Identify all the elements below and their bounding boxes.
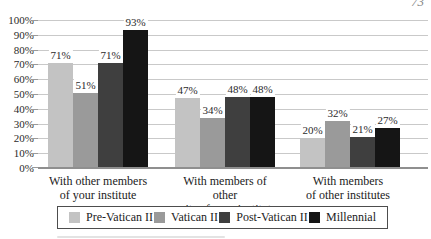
bar-pre-vatican-ii-cat2 — [175, 98, 200, 168]
bar-value-label: 21% — [350, 123, 374, 135]
legend-label: Post-Vatican II — [236, 210, 308, 225]
bar-post-vatican-ii-cat3 — [350, 137, 375, 168]
category-label: With members of other institutes — [293, 174, 403, 202]
bar-value-label: 93% — [123, 16, 147, 28]
bar-millennial-cat2 — [250, 97, 275, 168]
category-label-line: of your institute — [43, 188, 153, 202]
y-axis-tick — [32, 109, 38, 110]
bar-millennial-cat1 — [123, 30, 148, 168]
cut-off-text-remnant — [57, 236, 225, 238]
legend-swatch-pre-vatican-ii — [69, 212, 80, 223]
category-label-line: of other institutes — [293, 188, 403, 202]
y-axis-tick — [32, 35, 38, 36]
y-axis-tick-label: 40% — [0, 103, 34, 115]
bar-value-label: 47% — [175, 84, 199, 96]
y-axis-tick — [32, 20, 38, 21]
bar-value-label: 48% — [225, 83, 249, 95]
x-axis-baseline — [38, 167, 428, 169]
legend-swatch-millennial — [309, 212, 320, 223]
gridline — [38, 35, 428, 36]
y-axis-tick — [32, 94, 38, 95]
y-axis-tick-label: 30% — [0, 118, 34, 130]
gridline — [38, 20, 428, 21]
bar-value-label: 32% — [325, 107, 349, 119]
bar-vatican-ii-cat3 — [325, 121, 350, 168]
category-label-line: With members — [293, 174, 403, 188]
y-axis-tick-label: 10% — [0, 147, 34, 159]
category-label-line: With members of other — [170, 174, 280, 202]
y-axis-tick-label: 0% — [0, 162, 34, 174]
legend-item-millennial: Millennial — [309, 210, 376, 225]
category-label-line: With other members — [43, 174, 153, 188]
bar-value-label: 48% — [250, 83, 274, 95]
legend-item-pre-vatican-ii: Pre-Vatican II — [69, 210, 153, 225]
y-axis-tick — [32, 79, 38, 80]
y-axis-tick-label: 90% — [0, 29, 34, 41]
legend-swatch-vatican-ii — [154, 212, 165, 223]
y-axis-tick — [32, 64, 38, 65]
y-axis-tick-label: 60% — [0, 73, 34, 85]
legend: Pre-Vatican II Vatican II Post-Vatican I… — [57, 206, 388, 229]
y-axis-labels: 0%10%20%30%40%50%60%70%80%90%100% — [0, 20, 34, 168]
y-axis-tick — [32, 50, 38, 51]
category-label: With other members of your institute — [43, 174, 153, 202]
y-axis-tick — [32, 124, 38, 125]
y-axis-tick — [32, 167, 38, 168]
bar-value-label: 51% — [73, 79, 97, 91]
y-axis-tick-label: 100% — [0, 14, 34, 26]
legend-item-vatican-ii: Vatican II — [154, 210, 218, 225]
y-axis-tick-label: 70% — [0, 58, 34, 70]
bar-vatican-ii-cat2 — [200, 118, 225, 168]
bar-value-label: 27% — [375, 114, 399, 126]
gridline — [38, 64, 428, 65]
y-axis-tick — [32, 153, 38, 154]
legend-swatch-post-vatican-ii — [219, 212, 230, 223]
legend-label: Millennial — [326, 210, 376, 225]
bar-value-label: 20% — [300, 124, 324, 136]
y-axis-tick-label: 20% — [0, 132, 34, 144]
gridline — [38, 50, 428, 51]
bar-post-vatican-ii-cat2 — [225, 97, 250, 168]
bar-value-label: 71% — [48, 49, 72, 61]
chart-page: 73 0%10%20%30%40%50%60%70%80%90%100% 71%… — [0, 0, 431, 239]
bar-value-label: 71% — [98, 49, 122, 61]
legend-label: Pre-Vatican II — [86, 210, 153, 225]
y-axis-tick — [32, 138, 38, 139]
plot-area: 71%47%20%51%34%32%71%48%21%93%48%27% — [38, 20, 428, 168]
bar-post-vatican-ii-cat1 — [98, 63, 123, 168]
bar-pre-vatican-ii-cat1 — [48, 63, 73, 168]
legend-label: Vatican II — [171, 210, 218, 225]
legend-item-post-vatican-ii: Post-Vatican II — [219, 210, 308, 225]
bar-millennial-cat3 — [375, 128, 400, 168]
bar-value-label: 34% — [200, 104, 224, 116]
page-number: 73 — [411, 0, 424, 10]
y-axis-tick-label: 80% — [0, 44, 34, 56]
y-axis-tick-label: 50% — [0, 88, 34, 100]
bar-pre-vatican-ii-cat3 — [300, 138, 325, 168]
bar-vatican-ii-cat1 — [73, 93, 98, 168]
